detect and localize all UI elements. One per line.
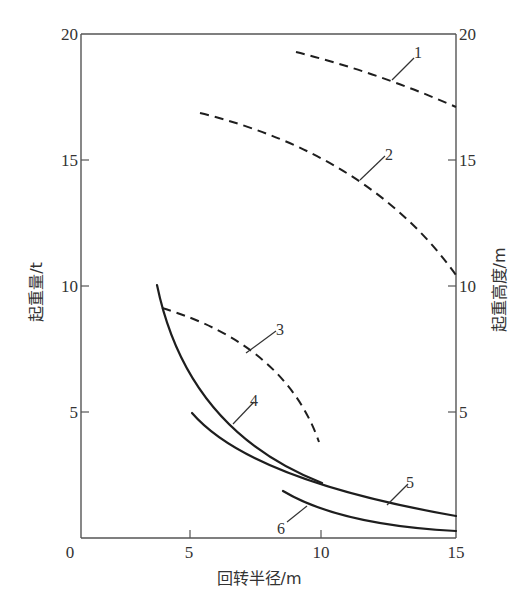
curve-label-6: 6 <box>277 520 285 537</box>
curve-3 <box>162 308 319 442</box>
y-right-tick-5: 5 <box>459 403 468 422</box>
x-tick-10: 10 <box>313 543 330 562</box>
x-tick-15: 15 <box>448 543 465 562</box>
y-right-axis-title: 起重高度/m <box>490 248 509 333</box>
leader-3 <box>246 331 276 353</box>
y-right-tick-10: 10 <box>459 277 476 296</box>
curve-label-2: 2 <box>385 146 393 163</box>
y-right-tick-20: 20 <box>459 25 476 44</box>
y-left-tick-20: 20 <box>61 25 78 44</box>
y-right-tick-15: 15 <box>459 151 476 170</box>
curve-label-1: 1 <box>414 44 422 61</box>
curve-label-5: 5 <box>406 474 414 491</box>
y-left-tick-5: 5 <box>70 403 79 422</box>
curve-label-4: 4 <box>250 392 258 409</box>
y-left-tick-10: 10 <box>61 277 78 296</box>
left-y-ticks <box>81 160 89 412</box>
curve-label-3: 3 <box>276 321 284 338</box>
y-left-axis-title: 起重量/t <box>27 262 46 322</box>
right-y-ticks <box>448 160 456 412</box>
x-axis-title: 回转半径/m <box>217 569 302 588</box>
x-ticks <box>190 530 321 538</box>
crane-performance-chart: 5 10 15 20 5 10 15 20 0 5 10 15 回转半径/m 起… <box>0 0 519 612</box>
curve-5 <box>192 413 456 516</box>
leader-5 <box>387 484 408 505</box>
leader-2 <box>360 156 385 180</box>
x-tick-5: 5 <box>185 543 194 562</box>
plot-frame <box>81 34 456 538</box>
leader-1 <box>392 58 414 80</box>
x-tick-0: 0 <box>66 543 75 562</box>
curve-2 <box>200 113 456 275</box>
y-left-tick-15: 15 <box>61 151 78 170</box>
curve-1 <box>296 52 456 107</box>
leader-6 <box>287 506 307 522</box>
